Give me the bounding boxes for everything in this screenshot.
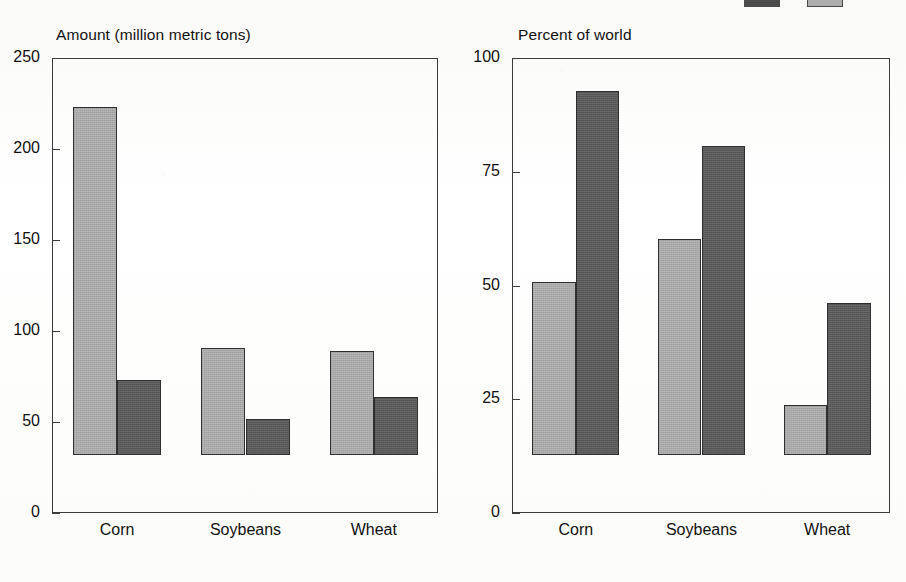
bars-layer-amount [53,0,438,455]
y-tick-label: 50 [22,412,40,430]
bar-left-soybeans-dark [246,419,290,455]
bar-left-corn-light [73,107,117,455]
bar-right-corn-light [532,282,575,455]
chart-panel-percent: Percent of world 0255075100 CornSoybeans… [460,0,906,582]
y-tick-label: 150 [13,230,40,248]
bar-right-soybeans-dark [702,146,745,455]
bars-layer-percent [513,0,890,455]
y-tick-mark-icon [512,513,520,514]
x-axis-label-corn: Corn [100,521,135,539]
bar-right-wheat-dark [827,303,870,455]
y-tick-mark-icon [512,58,520,59]
y-tick-label: 50 [482,276,500,294]
bar-left-wheat-light [330,351,374,455]
bar-left-wheat-dark [374,397,418,455]
x-axis-label-wheat: Wheat [351,521,397,539]
y-tick-label: 100 [473,48,500,66]
y-tick-label: 0 [31,503,40,521]
bar-right-corn-dark [576,91,619,455]
x-axis-label-soybeans: Soybeans [210,521,281,539]
y-tick-label: 200 [13,139,40,157]
y-tick-mark-icon [52,149,60,150]
x-axis-label-wheat: Wheat [804,521,850,539]
y-tick-label: 250 [13,48,40,66]
y-tick-label: 25 [482,389,500,407]
y-tick-mark-icon [52,331,60,332]
bar-right-soybeans-light [658,239,701,455]
bar-left-soybeans-light [201,348,245,455]
figure-two-panel-bar-charts: Amount (million metric tons) 05010015020… [0,0,906,582]
y-tick-mark-icon [512,399,520,400]
y-tick-mark-icon [52,422,60,423]
y-tick-mark-icon [52,513,60,514]
y-tick-label: 100 [13,321,40,339]
bar-right-wheat-light [784,405,827,455]
chart-panel-amount: Amount (million metric tons) 05010015020… [0,0,460,582]
y-tick-mark-icon [52,240,60,241]
bar-left-corn-dark [117,380,161,455]
y-tick-mark-icon [52,58,60,59]
y-tick-label: 75 [482,162,500,180]
y-tick-mark-icon [512,286,520,287]
y-tick-label: 0 [491,503,500,521]
y-tick-mark-icon [512,172,520,173]
x-axis-label-soybeans: Soybeans [666,521,737,539]
x-axis-label-corn: Corn [558,521,593,539]
